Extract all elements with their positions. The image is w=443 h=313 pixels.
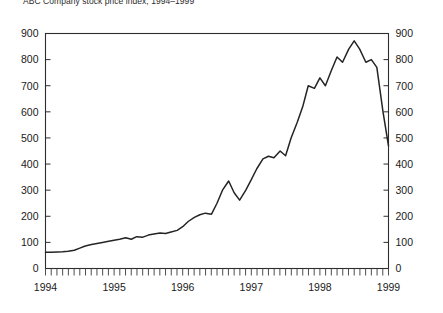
x-axis-label-year: 1999 bbox=[377, 281, 401, 293]
y-axis-label-right: 400 bbox=[396, 158, 414, 170]
y-axis-label-left: 600 bbox=[21, 106, 39, 118]
y-axis-label-left: 700 bbox=[21, 80, 39, 92]
y-axis-label-right: 800 bbox=[396, 53, 414, 65]
x-axis-label-year: 1994 bbox=[34, 281, 58, 293]
y-axis-label-left: 100 bbox=[21, 236, 39, 248]
chart-plot-area: 0010010020020030030040040050050060060070… bbox=[0, 0, 443, 313]
y-axis-label-left: 300 bbox=[21, 184, 39, 196]
y-axis-label-left: 400 bbox=[21, 158, 39, 170]
x-axis-label-year: 1998 bbox=[308, 281, 332, 293]
y-axis-label-right: 0 bbox=[396, 262, 402, 274]
y-axis-label-left: 0 bbox=[33, 262, 39, 274]
y-axis-label-left: 800 bbox=[21, 53, 39, 65]
y-axis-label-right: 300 bbox=[396, 184, 414, 196]
y-axis-label-right: 600 bbox=[396, 106, 414, 118]
y-axis-label-right: 700 bbox=[396, 80, 414, 92]
y-axis-label-right: 100 bbox=[396, 236, 414, 248]
data-series-line bbox=[46, 41, 389, 253]
y-axis-label-left: 200 bbox=[21, 210, 39, 222]
x-axis-label-year: 1996 bbox=[171, 281, 195, 293]
y-axis-label-left: 900 bbox=[21, 27, 39, 39]
stock-price-chart-figure: ABC Company stock price index, 1994–1999… bbox=[0, 0, 443, 313]
plot-frame-border bbox=[46, 34, 389, 269]
y-axis-label-right: 500 bbox=[396, 132, 414, 144]
y-axis-label-right: 200 bbox=[396, 210, 414, 222]
y-axis-label-right: 900 bbox=[396, 27, 414, 39]
y-axis-label-left: 500 bbox=[21, 132, 39, 144]
x-axis-label-year: 1995 bbox=[102, 281, 126, 293]
x-axis-label-year: 1997 bbox=[240, 281, 264, 293]
